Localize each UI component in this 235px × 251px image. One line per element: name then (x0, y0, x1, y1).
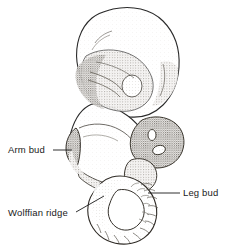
label-leg-bud: Leg bud (183, 187, 218, 198)
label-wolffian-ridge: Wolffian ridge (8, 207, 68, 218)
yolk-opening-upper (148, 130, 156, 141)
embryo-figure: Arm bud Wolffian ridge Leg bud (0, 0, 235, 251)
embryo-body (66, 8, 184, 245)
otic-vesicle (122, 75, 142, 97)
label-arm-bud: Arm bud (8, 144, 45, 155)
